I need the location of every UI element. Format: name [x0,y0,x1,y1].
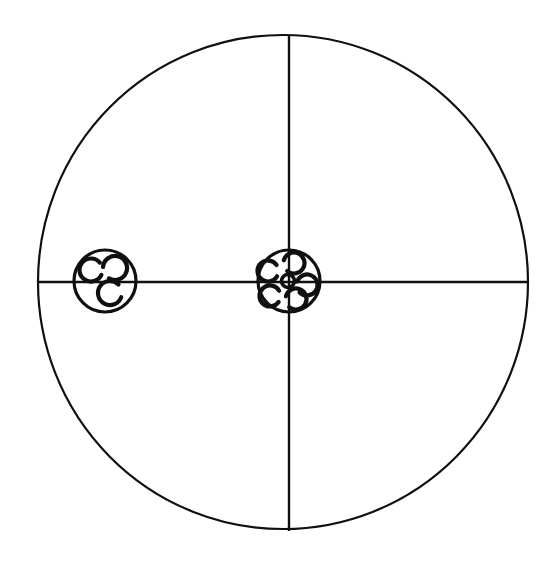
circular-cross-section-diagram [0,0,558,567]
figure-root [0,0,558,567]
figure-background [0,0,558,567]
